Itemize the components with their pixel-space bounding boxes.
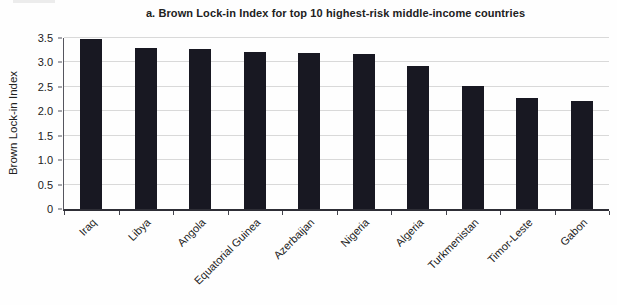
bar-equatorial-guinea	[244, 52, 266, 209]
x-tick-mark	[173, 211, 174, 215]
bar-azerbaijan	[298, 53, 320, 209]
x-tick-mark	[446, 211, 447, 215]
bar-libya	[135, 48, 157, 209]
x-axis-labels: IraqLibyaAngolaEquatorial GuineaAzerbaij…	[63, 213, 608, 303]
y-tick-mark	[58, 160, 62, 161]
y-tick-label: 3.5	[38, 33, 53, 44]
y-tick-label: 1.0	[38, 155, 53, 166]
x-axis-label: Algeria	[393, 216, 426, 249]
x-tick-mark	[609, 211, 610, 215]
x-tick-mark	[228, 211, 229, 215]
x-axis-label: Nigeria	[338, 216, 371, 249]
x-axis-label: Turkmenistan	[425, 216, 480, 271]
y-tick-mark	[58, 209, 62, 210]
x-axis-label: Iraq	[77, 216, 99, 238]
x-tick-mark	[500, 211, 501, 215]
y-tick-label: 2.0	[38, 106, 53, 117]
x-tick-mark	[119, 211, 120, 215]
y-tick-label: 0.5	[38, 179, 53, 190]
bar-angola	[189, 49, 211, 209]
bar-timor-leste	[516, 98, 538, 209]
gridline	[64, 37, 609, 38]
bar-gabon	[571, 101, 593, 209]
bar-iraq	[80, 39, 102, 209]
y-tick-mark	[58, 86, 62, 87]
y-tick-mark	[58, 135, 62, 136]
y-tick-label: 2.5	[38, 81, 53, 92]
chart-title: a. Brown Lock-in Index for top 10 highes…	[63, 7, 608, 19]
x-axis-label: Gabon	[557, 216, 589, 248]
x-tick-mark	[64, 211, 65, 215]
x-axis-label: Angola	[175, 216, 208, 249]
x-tick-mark	[555, 211, 556, 215]
y-axis-ticks: 3.53.02.52.01.51.00.50	[0, 38, 63, 209]
chart-canvas: a. Brown Lock-in Index for top 10 highes…	[0, 0, 617, 305]
y-tick-label: 0	[47, 204, 53, 215]
y-tick-mark	[58, 62, 62, 63]
bar-turkmenistan	[462, 86, 484, 209]
bar-algeria	[407, 66, 429, 209]
y-tick-mark	[58, 184, 62, 185]
x-tick-mark	[337, 211, 338, 215]
x-axis-label: Azerbaijan	[271, 216, 316, 261]
x-axis-label: Timor-Leste	[485, 216, 535, 266]
bar-nigeria	[353, 54, 375, 209]
x-tick-mark	[391, 211, 392, 215]
x-tick-mark	[282, 211, 283, 215]
plot-area	[63, 38, 609, 211]
y-tick-label: 3.0	[38, 57, 53, 68]
y-tick-label: 1.5	[38, 130, 53, 141]
scan-artifact	[13, 0, 55, 3]
y-tick-mark	[58, 111, 62, 112]
x-axis-label: Libya	[126, 216, 153, 243]
y-tick-mark	[58, 38, 62, 39]
